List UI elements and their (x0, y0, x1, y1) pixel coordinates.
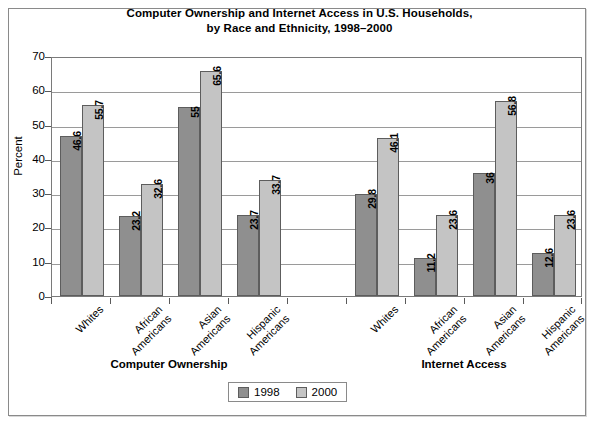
group-label-2: Internet Access (421, 358, 506, 370)
x-axis-category-label: AfricanAmericans (414, 303, 468, 357)
bar-1998-6[interactable]: 11.2 (414, 258, 436, 296)
legend-swatch-2000 (296, 387, 307, 398)
y-axis-tick-label: 10 (19, 257, 45, 268)
group-label-1: Computer Ownership (111, 358, 228, 370)
gridline (52, 92, 581, 93)
bar-1998-1[interactable]: 23.2 (119, 216, 141, 296)
bar-2000-6[interactable]: 23.6 (436, 215, 458, 296)
bar-2000-0[interactable]: 55.7 (82, 105, 104, 296)
y-axis-tick-mark (45, 126, 51, 127)
bar-value-label: 23.6 (565, 210, 577, 230)
legend-label-1998: 1998 (254, 386, 280, 398)
bar-value-label: 65.6 (211, 66, 223, 86)
bar-value-label: 55.7 (93, 100, 105, 120)
bar-value-label: 46.1 (388, 133, 400, 153)
y-axis-tick-label: 40 (19, 154, 45, 165)
bar-1998-0[interactable]: 46.6 (60, 136, 82, 296)
y-axis-tick-mark (45, 297, 51, 298)
bar-value-label: 33.7 (270, 176, 282, 196)
bar-1998-5[interactable]: 29.8 (355, 194, 377, 296)
x-axis-category-label: AfricanAmericans (119, 303, 173, 357)
chart-title-line-1: Computer Ownership and Internet Access i… (0, 6, 599, 21)
x-axis-category-label: Whites (368, 303, 401, 336)
bar-value-label: 56.8 (506, 96, 518, 116)
bar-1998-8[interactable]: 12.6 (532, 253, 554, 296)
x-axis-category-label: Whites (73, 303, 106, 336)
chart-legend: 1998 2000 (228, 382, 347, 402)
y-axis-tick-label: 70 (19, 51, 45, 62)
y-axis-tick-mark (45, 91, 51, 92)
bar-2000-8[interactable]: 23.6 (554, 215, 576, 296)
bar-1998-3[interactable]: 23.7 (237, 215, 259, 296)
y-axis-tick-labels: 010203040506070 (14, 57, 45, 297)
x-axis-tick-labels: WhitesAfricanAmericansAsianAmericansHisp… (51, 303, 582, 355)
bar-2000-1[interactable]: 32.6 (141, 184, 163, 296)
bar-2000-7[interactable]: 56.8 (495, 101, 517, 296)
chart-title: Computer Ownership and Internet Access i… (0, 6, 599, 36)
y-axis-tick-mark (45, 194, 51, 195)
y-axis-tick-label: 30 (19, 188, 45, 199)
x-axis-category-label: HispanicAmericans (532, 303, 586, 357)
legend-item-2000[interactable]: 2000 (296, 386, 338, 398)
y-axis-tick-label: 20 (19, 222, 45, 233)
bar-value-label: 23.6 (447, 210, 459, 230)
x-axis-category-label: AsianAmericans (178, 303, 232, 357)
plot-area: 46.655.723.232.65565.623.733.729.846.111… (51, 57, 582, 297)
legend-label-2000: 2000 (312, 386, 338, 398)
y-axis-tick-label: 60 (19, 85, 45, 96)
y-axis-tick-mark (45, 160, 51, 161)
y-axis-tick-label: 0 (19, 291, 45, 302)
bar-1998-7[interactable]: 36 (473, 173, 495, 296)
bar-2000-3[interactable]: 33.7 (259, 180, 281, 296)
x-axis-category-label: HispanicAmericans (237, 303, 291, 357)
chart-title-line-2: by Race and Ethnicity, 1998–2000 (0, 21, 599, 36)
y-axis-tick-mark (45, 228, 51, 229)
y-axis-tick-label: 50 (19, 120, 45, 131)
legend-swatch-1998 (238, 387, 249, 398)
bar-value-label: 32.6 (152, 179, 164, 199)
y-axis-tick-mark (45, 263, 51, 264)
bar-1998-2[interactable]: 55 (178, 107, 200, 296)
bar-2000-2[interactable]: 65.6 (200, 71, 222, 296)
legend-item-1998[interactable]: 1998 (238, 386, 280, 398)
x-axis-category-label: AsianAmericans (473, 303, 527, 357)
bar-2000-5[interactable]: 46.1 (377, 138, 399, 296)
y-axis-tick-mark (45, 57, 51, 58)
